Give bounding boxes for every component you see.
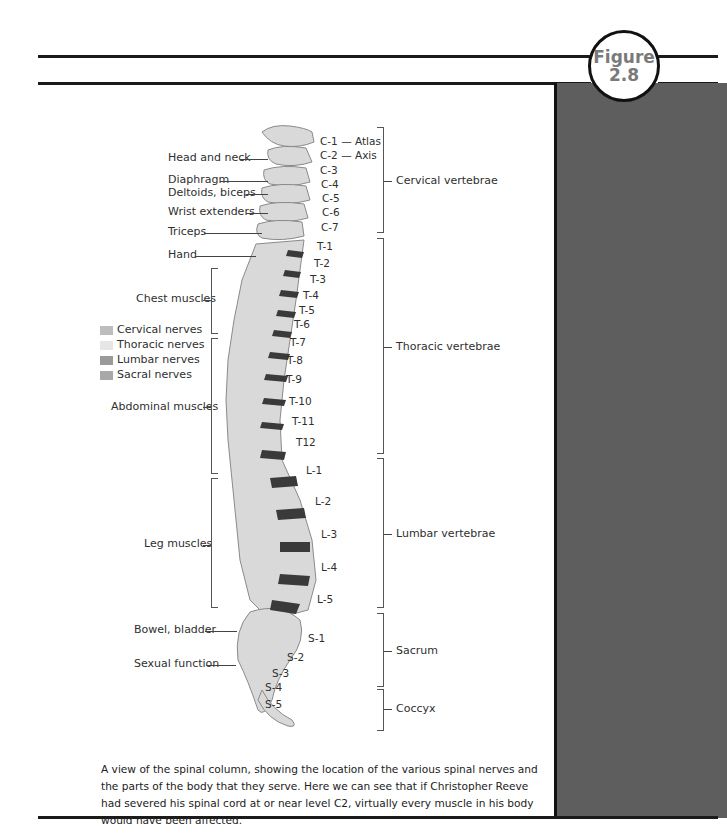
label-diaphragm: Diaphragm [168, 173, 229, 186]
bracket-leg-muscles [211, 478, 218, 608]
bracket-abdominal-muscles [211, 338, 218, 474]
leader-sexual-function [206, 665, 236, 666]
vertebra-t2: T-2 [314, 257, 330, 269]
leader-diaphragm [220, 181, 268, 182]
label-chest-muscles: Chest muscles [136, 292, 216, 305]
leader-triceps [204, 233, 262, 234]
region-cervical-vertebrae: Cervical vertebrae [396, 174, 498, 187]
vertebra-t7: T-7 [290, 336, 306, 348]
vertebra-t11: T-11 [292, 415, 315, 427]
vertebra-c4: C-4 [321, 178, 339, 190]
region-coccyx: Coccyx [396, 702, 436, 715]
vertebra-t12: T12 [296, 436, 316, 448]
vertebra-l4: L-4 [321, 561, 337, 573]
bracket-thoracic-vertebrae [377, 238, 384, 454]
vertebra-t3: T-3 [310, 273, 326, 285]
vertebra-t10: T-10 [289, 395, 312, 407]
bracket-sacrum [377, 613, 384, 687]
vertebra-t5: T-5 [299, 304, 315, 316]
label-triceps: Triceps [168, 225, 206, 238]
vertebra-l1: L-1 [306, 464, 322, 476]
legend-label-sacral: Sacral nerves [117, 368, 192, 381]
legend-swatch-thoracic [100, 341, 113, 350]
label-deltoids-biceps: Deltoids, biceps [168, 186, 256, 199]
vertebra-s3: S-3 [272, 667, 289, 679]
vertebra-c6: C-6 [322, 206, 340, 218]
leader-coccyx [384, 709, 392, 710]
bracket-cervical-vertebrae [377, 127, 384, 233]
label-sexual-function: Sexual function [134, 657, 219, 670]
leader-bowel-bladder [205, 631, 237, 632]
vertebra-c7: C-7 [321, 221, 339, 233]
vertebra-c5: C-5 [322, 192, 340, 204]
leader-chest-muscles [203, 300, 211, 301]
vertebra-t8: T-8 [287, 354, 303, 366]
region-thoracic-vertebrae: Thoracic vertebrae [396, 340, 500, 353]
leader-deltoids-biceps [246, 194, 268, 195]
leader-leg-muscles [203, 545, 211, 546]
leader-cervical-vertebrae [384, 181, 392, 182]
vertebra-t9: T-9 [286, 373, 302, 385]
vertebra-l5: L-5 [317, 593, 333, 605]
legend-label-cervical: Cervical nerves [117, 323, 202, 336]
leader-abdominal-muscles [203, 407, 211, 408]
leader-lumbar-vertebrae [384, 534, 392, 535]
leader-thoracic-vertebrae [384, 347, 392, 348]
vertebra-t4: T-4 [303, 289, 319, 301]
vertebra-l2: L-2 [315, 495, 331, 507]
bracket-chest-muscles [211, 268, 218, 334]
vertebra-s1: S-1 [308, 632, 325, 644]
leader-head-and-neck [240, 159, 268, 160]
leader-sacrum [384, 651, 392, 652]
legend-label-lumbar: Lumbar nerves [117, 353, 200, 366]
vertebra-t1: T-1 [317, 240, 333, 252]
vertebra-s4: S-4 [265, 681, 282, 693]
vertebra-c1: C-1 — Atlas [320, 135, 381, 147]
legend-swatch-sacral [100, 371, 113, 380]
leader-hand [196, 256, 256, 257]
label-wrist-extenders: Wrist extenders [168, 205, 255, 218]
figure-caption: A view of the spinal column, showing the… [101, 761, 546, 829]
label-bowel-bladder: Bowel, bladder [134, 623, 216, 636]
vertebra-s2: S-2 [287, 651, 304, 663]
legend-label-thoracic: Thoracic nerves [117, 338, 205, 351]
region-lumbar-vertebrae: Lumbar vertebrae [396, 527, 495, 540]
vertebra-c2: C-2 — Axis [320, 149, 377, 161]
legend-swatch-lumbar [100, 356, 113, 365]
label-head-and-neck: Head and neck [168, 151, 251, 164]
leader-wrist-extenders [246, 213, 268, 214]
region-sacrum: Sacrum [396, 644, 438, 657]
vertebra-t6: T-6 [294, 318, 310, 330]
vertebra-l3: L-3 [321, 528, 337, 540]
label-hand: Hand [168, 248, 197, 261]
legend-swatch-cervical [100, 326, 113, 335]
vertebra-s5: S-5 [265, 698, 282, 710]
label-leg-muscles: Leg muscles [144, 537, 212, 550]
bracket-lumbar-vertebrae [377, 458, 384, 608]
vertebra-c3: C-3 [320, 164, 338, 176]
bracket-coccyx [377, 689, 384, 731]
